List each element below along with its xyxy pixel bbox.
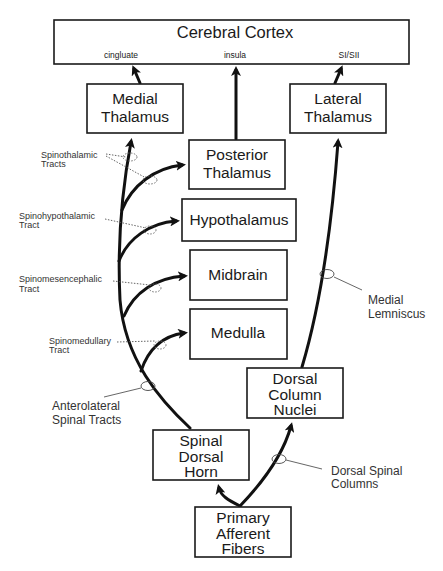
arrow-primary-afferent-to-dorsal-horn bbox=[219, 488, 240, 506]
lateral-thalamus-label-line1: Lateral bbox=[314, 90, 361, 107]
paf-label-line1: Primary bbox=[216, 509, 270, 526]
medulla-box: Medulla bbox=[190, 309, 287, 359]
medulla-label: Medulla bbox=[211, 324, 266, 341]
region-si-sii-label: SI/SII bbox=[339, 50, 360, 60]
anterolateral-label-line2: Spinal Tracts bbox=[52, 413, 121, 427]
arrow-medial-thalamus-to-cingulate bbox=[134, 69, 140, 83]
arrow-to-posterior-thalamus bbox=[122, 165, 182, 210]
medial-lemniscus-annotation: Medial Lemniscus bbox=[320, 270, 425, 322]
spinomedullary-tract-annotation: Spinomedullary Tract bbox=[49, 336, 166, 355]
region-cingulate-label: cingluate bbox=[104, 50, 138, 60]
cerebral-cortex-box: Cerebral Cortex cingluate insula SI/SII bbox=[54, 20, 409, 64]
spinohypothalamic-tract-annotation: Spinohypothalamic Tract bbox=[19, 211, 156, 234]
midbrain-box: Midbrain bbox=[190, 250, 287, 300]
spinomesencephalic-tract-annotation: Spinomesencephalic Tract bbox=[19, 274, 161, 294]
primary-afferent-fibers-box: Primary Afferent Fibers bbox=[195, 507, 291, 557]
lateral-thalamus-label-line2: Thalamus bbox=[304, 108, 372, 125]
medial-thalamus-label-line2: Thalamus bbox=[101, 108, 169, 125]
spinal-dorsal-horn-box: Spinal Dorsal Horn bbox=[153, 430, 249, 480]
spinohypothalamic-leader bbox=[105, 219, 146, 228]
hypothalamus-label: Hypothalamus bbox=[189, 211, 288, 228]
dorsal-columns-label-line2: Columns bbox=[331, 477, 378, 491]
spinomedullary-leader bbox=[117, 341, 155, 342]
dorsal-columns-label-line1: Dorsal Spinal bbox=[331, 464, 402, 478]
medial-thalamus-label-line1: Medial bbox=[112, 90, 158, 107]
spinomedullary-label-line2: Tract bbox=[49, 345, 70, 355]
arrow-to-hypothalamus bbox=[119, 221, 176, 261]
spinothalamic-tracts-annotation: Spinothalamic Tracts bbox=[41, 150, 157, 184]
arrow-to-midbrain bbox=[124, 276, 184, 316]
hypothalamus-box: Hypothalamus bbox=[182, 199, 296, 241]
cerebral-cortex-label: Cerebral Cortex bbox=[177, 23, 294, 41]
pain-pathway-diagram: Cerebral Cortex cingluate insula SI/SII … bbox=[0, 0, 443, 571]
medial-lemniscus-label-line1: Medial bbox=[368, 293, 403, 307]
dorsal-column-nuclei-box: Dorsal Column Nuclei bbox=[247, 368, 343, 418]
lateral-thalamus-box: Lateral Thalamus bbox=[290, 84, 386, 133]
midbrain-label: Midbrain bbox=[208, 266, 267, 283]
spinomesencephalic-ring bbox=[149, 284, 161, 292]
posterior-thalamus-label-line1: Posterior bbox=[206, 146, 268, 163]
dcn-label-line1: Dorsal bbox=[273, 370, 318, 387]
spinomesencephalic-label-line2: Tract bbox=[19, 284, 40, 294]
region-insula-label: insula bbox=[224, 50, 246, 60]
paf-label-line3: Fibers bbox=[221, 540, 264, 557]
anterolateral-label-line1: Anterolateral bbox=[52, 399, 120, 413]
arrow-medial-lemniscus-to-lateral-thalamus bbox=[302, 142, 338, 367]
dorsal-columns-leader bbox=[286, 460, 322, 469]
spinothalamic-label-line2: Tracts bbox=[41, 159, 66, 169]
anterolateral-spinal-tracts-annotation: Anterolateral Spinal Tracts bbox=[52, 382, 155, 428]
spinomesencephalic-label-line1: Spinomesencephalic bbox=[19, 274, 103, 284]
anterolateral-leader bbox=[104, 388, 141, 397]
dcn-label-line3: Nuclei bbox=[273, 401, 316, 418]
sdh-label-line1: Spinal bbox=[179, 432, 222, 449]
posterior-thalamus-box: Posterior Thalamus bbox=[189, 140, 285, 189]
spinohypothalamic-label-line2: Tract bbox=[19, 220, 40, 230]
arrow-to-medulla bbox=[141, 333, 184, 371]
medial-lemniscus-leader bbox=[334, 277, 362, 290]
sdh-label-line3: Horn bbox=[184, 463, 218, 480]
dorsal-spinal-columns-annotation: Dorsal Spinal Columns bbox=[272, 455, 402, 492]
arrow-lateral-thalamus-to-si-sii bbox=[335, 69, 341, 83]
posterior-thalamus-label-line2: Thalamus bbox=[203, 164, 271, 181]
medial-thalamus-box: Medial Thalamus bbox=[87, 84, 183, 133]
medial-lemniscus-label-line2: Lemniscus bbox=[368, 307, 425, 321]
